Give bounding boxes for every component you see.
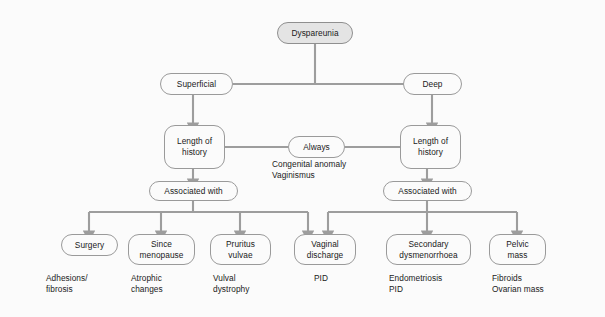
node-surgery[interactable]: Surgery (61, 234, 118, 256)
node-pruritus-vulvae[interactable]: Pruritus vulvae (210, 234, 271, 265)
node-length-of-history-superficial[interactable]: Length of history (164, 125, 225, 169)
node-associated-with-deep[interactable]: Associated with (383, 181, 472, 201)
diagram-canvas: Dyspareunia Superficial Deep Length of h… (0, 0, 605, 317)
caption-pelvic-mass-causes: Fibroids Ovarian mass (492, 273, 544, 295)
node-secondary-dysmenorrhoea[interactable]: Secondary dysmenorrhoea (386, 234, 471, 265)
caption-secondary-dysmenorrhoea-causes: Endometriosis PID (389, 273, 442, 295)
caption-since-menopause-causes: Atrophic changes (131, 273, 163, 295)
node-pelvic-mass[interactable]: Pelvic mass (489, 234, 546, 265)
node-deep[interactable]: Deep (403, 73, 462, 95)
node-length-of-history-deep[interactable]: Length of history (400, 125, 461, 169)
caption-vaginal-discharge-causes: PID (314, 273, 328, 284)
caption-surgery-causes: Adhesions/ fibrosis (46, 273, 88, 295)
node-dyspareunia[interactable]: Dyspareunia (277, 22, 353, 44)
node-superficial[interactable]: Superficial (160, 73, 233, 95)
caption-pruritus-vulvae-causes: Vulval dystrophy (213, 273, 249, 295)
node-associated-with-superficial[interactable]: Associated with (149, 181, 238, 201)
node-since-menopause[interactable]: Since menopause (128, 234, 195, 265)
node-vaginal-discharge[interactable]: Vaginal discharge (294, 234, 356, 265)
caption-always-causes: Congenital anomaly Vaginismus (272, 159, 346, 181)
node-always[interactable]: Always (288, 136, 345, 158)
